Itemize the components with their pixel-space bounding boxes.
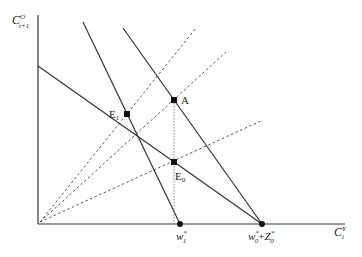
budget-line-steep-2	[123, 28, 262, 224]
ray-3	[40, 120, 263, 222]
point-A	[171, 97, 177, 103]
point-w1	[177, 221, 183, 227]
x-axis-label: CYt	[334, 225, 347, 241]
ray-2	[40, 52, 226, 222]
point-w0Z0	[259, 221, 265, 227]
diagram: COt+1 CYt A E1 E0 w*1 w*0+Z*0	[0, 0, 362, 257]
point-E1	[124, 111, 130, 117]
budget-line-steep-1	[83, 22, 180, 224]
label-A: A	[181, 94, 189, 106]
budget-line-shallow	[38, 66, 262, 224]
ray-1	[40, 28, 196, 222]
label-E1: E1	[109, 108, 120, 122]
tick-w0Z0: w*0+Z*0	[248, 229, 275, 245]
label-E0: E0	[175, 170, 186, 184]
y-axis-label: COt+1	[12, 13, 29, 30]
point-E0	[171, 159, 177, 165]
tick-w1: w*1	[176, 229, 187, 245]
